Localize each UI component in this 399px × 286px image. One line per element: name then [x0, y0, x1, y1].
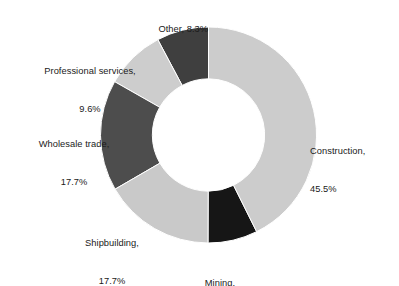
donut-chart-figure: Other, 8.3% Professional services, 9.6% … — [0, 0, 399, 286]
slice-label-wholesale-trade-line1: Wholesale trade, — [8, 138, 140, 151]
slice-label-construction-line1: Construction, — [310, 145, 399, 158]
slice-label-shipbuilding: Shipbuilding, 17.7% — [48, 212, 176, 286]
slice-label-shipbuilding-line2: 17.7% — [48, 275, 176, 286]
slice-label-construction: Construction, 45.5% — [310, 120, 399, 220]
slice-label-professional-services-line1: Professional services, — [14, 65, 166, 78]
slice-label-mining: Mining, 7.9% — [166, 252, 274, 286]
slice-label-construction-line2: 45.5% — [310, 183, 399, 196]
slice-label-shipbuilding-line1: Shipbuilding, — [48, 237, 176, 250]
slice-label-wholesale-trade: Wholesale trade, 17.7% — [8, 113, 140, 213]
slice-label-mining-line1: Mining, — [166, 277, 274, 286]
slice-label-other-text: Other, 8.3% — [158, 24, 208, 34]
slice-label-wholesale-trade-line2: 17.7% — [8, 176, 140, 189]
